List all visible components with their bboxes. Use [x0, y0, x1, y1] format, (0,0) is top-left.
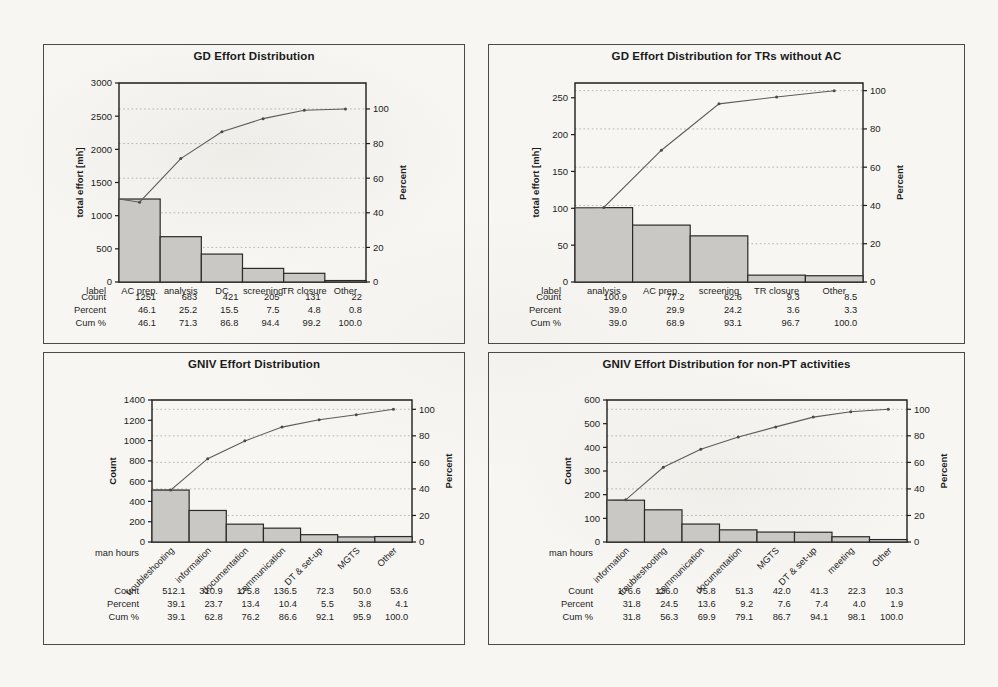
plot-area: 0100200300400500600020406080100CountPerc…	[489, 370, 964, 641]
svg-text:0: 0	[107, 276, 112, 287]
svg-text:15.5: 15.5	[220, 305, 238, 315]
svg-text:Cum %: Cum %	[76, 318, 106, 328]
svg-text:Percent: Percent	[894, 164, 905, 200]
svg-text:93.1: 93.1	[724, 318, 742, 328]
svg-text:5.5: 5.5	[321, 599, 334, 609]
svg-text:421: 421	[223, 292, 239, 302]
svg-text:10.3: 10.3	[885, 586, 903, 596]
svg-text:683: 683	[182, 292, 198, 302]
svg-text:53.6: 53.6	[390, 586, 408, 596]
svg-text:0: 0	[595, 536, 600, 547]
svg-text:man hours: man hours	[95, 548, 139, 558]
svg-text:600: 600	[584, 394, 600, 405]
svg-text:4.0: 4.0	[853, 599, 866, 609]
svg-text:98.1: 98.1	[848, 612, 866, 622]
plot-area: 050100150200250020406080100total effort …	[489, 62, 964, 340]
svg-text:200: 200	[552, 129, 568, 140]
svg-text:41.3: 41.3	[810, 586, 828, 596]
svg-text:46.1: 46.1	[138, 305, 156, 315]
svg-text:9.3: 9.3	[787, 292, 800, 302]
svg-text:39.0: 39.0	[609, 305, 627, 315]
svg-text:86.6: 86.6	[279, 612, 297, 622]
svg-text:40: 40	[914, 483, 925, 494]
svg-text:3.3: 3.3	[844, 305, 857, 315]
svg-text:39.0: 39.0	[609, 318, 627, 328]
svg-text:20: 20	[419, 510, 430, 521]
chart-title: GNIV Effort Distribution	[44, 358, 464, 370]
svg-text:60: 60	[419, 457, 430, 468]
svg-text:250: 250	[552, 92, 568, 103]
svg-text:0: 0	[140, 536, 145, 547]
svg-text:24.5: 24.5	[660, 599, 678, 609]
svg-text:71.3: 71.3	[179, 318, 197, 328]
svg-text:136.5: 136.5	[274, 586, 297, 596]
svg-text:7.4: 7.4	[815, 599, 828, 609]
svg-text:40: 40	[419, 483, 430, 494]
svg-text:23.7: 23.7	[204, 599, 222, 609]
svg-text:29.9: 29.9	[666, 305, 684, 315]
svg-text:60: 60	[870, 162, 881, 173]
svg-text:3.6: 3.6	[787, 305, 800, 315]
svg-text:150: 150	[552, 166, 568, 177]
svg-text:Count: Count	[568, 586, 593, 596]
svg-text:0.8: 0.8	[349, 305, 362, 315]
svg-text:800: 800	[129, 455, 145, 466]
svg-text:46.1: 46.1	[138, 318, 156, 328]
svg-text:80: 80	[914, 430, 925, 441]
svg-text:72.3: 72.3	[316, 586, 334, 596]
svg-text:205: 205	[264, 292, 280, 302]
plot-area: 050010001500200025003000020406080100tota…	[44, 62, 464, 340]
svg-text:86.8: 86.8	[220, 318, 238, 328]
svg-text:22: 22	[352, 292, 362, 302]
svg-text:100.9: 100.9	[604, 292, 627, 302]
svg-text:76.2: 76.2	[242, 612, 260, 622]
svg-text:4.8: 4.8	[308, 305, 321, 315]
svg-text:60: 60	[914, 457, 925, 468]
svg-text:0: 0	[563, 276, 568, 287]
svg-text:94.1: 94.1	[810, 612, 828, 622]
svg-text:100: 100	[870, 85, 886, 96]
svg-text:75.8: 75.8	[698, 586, 716, 596]
panel-gniv-effort-distribution-non-pt: GNIV Effort Distribution for non-PT acti…	[488, 352, 965, 645]
svg-text:400: 400	[584, 442, 600, 453]
panel-gd-effort-distribution-trs-without-ac: GD Effort Distribution for TRs without A…	[488, 44, 965, 344]
svg-text:Percent: Percent	[443, 453, 454, 489]
svg-text:500: 500	[584, 418, 600, 429]
svg-text:600: 600	[129, 476, 145, 487]
chart-title: GD Effort Distribution for TRs without A…	[489, 50, 964, 62]
svg-text:100: 100	[584, 513, 600, 524]
svg-text:60: 60	[373, 173, 384, 184]
svg-text:Percent: Percent	[74, 305, 106, 315]
svg-text:80: 80	[870, 123, 881, 134]
svg-text:99.2: 99.2	[303, 318, 321, 328]
svg-text:13.4: 13.4	[242, 599, 260, 609]
svg-text:50.0: 50.0	[353, 586, 371, 596]
svg-text:Count: Count	[562, 456, 573, 484]
svg-text:40: 40	[870, 200, 881, 211]
svg-text:69.9: 69.9	[698, 612, 716, 622]
svg-text:Count: Count	[114, 586, 139, 596]
svg-text:2000: 2000	[91, 144, 112, 155]
svg-text:92.1: 92.1	[316, 612, 334, 622]
svg-text:512.1: 512.1	[162, 586, 185, 596]
svg-text:Count: Count	[81, 292, 106, 302]
svg-text:62.6: 62.6	[724, 292, 742, 302]
svg-text:Percent: Percent	[397, 164, 408, 200]
svg-text:Other: Other	[870, 545, 894, 569]
svg-text:500: 500	[96, 243, 112, 254]
svg-text:MGTS: MGTS	[755, 545, 781, 571]
panel-gniv-effort-distribution: GNIV Effort Distribution 020040060080010…	[43, 352, 465, 645]
svg-text:1500: 1500	[91, 177, 112, 188]
svg-text:100: 100	[373, 103, 389, 114]
svg-text:Percent: Percent	[938, 453, 949, 489]
svg-text:Percent: Percent	[529, 305, 561, 315]
svg-text:39.1: 39.1	[167, 599, 185, 609]
svg-text:man hours: man hours	[549, 548, 593, 558]
svg-text:8.5: 8.5	[844, 292, 857, 302]
svg-text:0: 0	[419, 536, 424, 547]
svg-text:total effort [mh]: total effort [mh]	[530, 147, 541, 217]
svg-text:20: 20	[914, 510, 925, 521]
svg-text:1400: 1400	[124, 394, 145, 405]
svg-text:0: 0	[914, 536, 919, 547]
svg-text:100.0: 100.0	[385, 612, 408, 622]
